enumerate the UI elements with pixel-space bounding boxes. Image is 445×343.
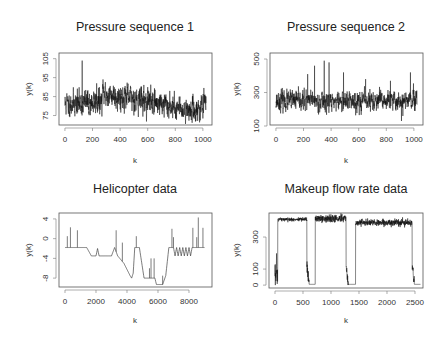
y-axis-label: y(k) [232, 82, 241, 96]
x-tick-label: 800 [169, 135, 183, 144]
x-tick-label: 8000 [180, 297, 198, 306]
y-tick-label: 4 [41, 216, 50, 221]
y-tick-label: 0 [41, 236, 50, 241]
subplot-title: Makeup flow rate data [285, 182, 408, 196]
x-tick-label: 500 [296, 298, 310, 307]
y-tick-label: 85 [41, 92, 50, 101]
x-tick-label: 0 [273, 298, 278, 307]
x-tick-label: 1000 [405, 135, 423, 144]
x-tick-label: 200 [297, 135, 311, 144]
subplot-title: Pressure sequence 1 [76, 20, 194, 34]
y-axis-label: y(k) [232, 243, 241, 257]
y-tick-label: 300 [251, 230, 260, 244]
x-tick-label: 6000 [149, 297, 167, 306]
y-tick-label: 500 [252, 52, 261, 66]
x-tick-label: 1000 [322, 298, 340, 307]
x-tick-label: 4000 [118, 297, 136, 306]
y-tick-label: 95 [41, 73, 50, 82]
x-tick-label: 0 [274, 135, 279, 144]
y-tick-label: 105 [41, 51, 50, 65]
figure-background [0, 0, 445, 343]
y-tick-label: 75 [41, 111, 50, 120]
x-tick-label: 800 [380, 135, 394, 144]
x-tick-label: 1500 [350, 298, 368, 307]
y-tick-label: 100 [252, 119, 261, 133]
y-tick-label: 100 [251, 262, 260, 276]
x-tick-label: 600 [352, 135, 366, 144]
x-tick-label: 0 [63, 297, 68, 306]
x-tick-label: 2000 [378, 298, 396, 307]
y-tick-label: 300 [252, 85, 261, 99]
y-axis-label: y(k) [24, 82, 33, 96]
y-tick-label: -8 [41, 274, 50, 282]
x-tick-label: 0 [63, 135, 68, 144]
x-tick-label: 2500 [406, 298, 424, 307]
figure: Pressure sequence 1 k y(k) 0200400600800… [0, 0, 445, 343]
x-tick-label: 600 [141, 135, 155, 144]
y-tick-label: -4 [41, 254, 50, 262]
y-tick-label: 0 [251, 282, 260, 287]
x-tick-label: 400 [113, 135, 127, 144]
x-tick-label: 200 [86, 135, 100, 144]
x-tick-label: 400 [324, 135, 338, 144]
subplot-title: Helicopter data [93, 182, 177, 196]
y-axis-label: y(k) [24, 243, 33, 257]
x-tick-label: 1000 [194, 135, 212, 144]
subplot-title: Pressure sequence 2 [287, 20, 405, 34]
x-tick-label: 2000 [87, 297, 105, 306]
